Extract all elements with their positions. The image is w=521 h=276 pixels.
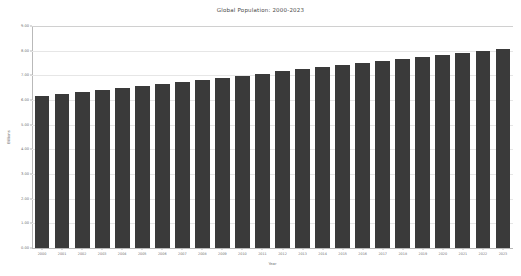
x-axis-tick-mark — [162, 248, 163, 250]
bar[interactable] — [455, 53, 470, 248]
bar-slot — [413, 26, 433, 248]
x-axis-tick-mark — [242, 248, 243, 250]
y-axis-label: Billions — [6, 130, 11, 144]
bar[interactable] — [395, 59, 410, 248]
bar[interactable] — [195, 80, 210, 248]
bar-slot — [313, 26, 333, 248]
x-axis-tick-label: 2013 — [298, 252, 307, 256]
bar[interactable] — [155, 84, 170, 248]
x-axis-tick-label: 2019 — [418, 252, 427, 256]
x-axis-tick-mark — [282, 248, 283, 250]
x-axis-tick-label: 2005 — [138, 252, 147, 256]
x-axis-tick-mark — [482, 248, 483, 250]
x-axis-tick-mark — [122, 248, 123, 250]
bar[interactable] — [95, 90, 110, 248]
chart-title: Global Population: 2000-2023 — [0, 7, 521, 13]
x-axis-tick-mark — [182, 248, 183, 250]
x-axis-tick-label: 2018 — [398, 252, 407, 256]
bar-series — [32, 26, 513, 248]
bar[interactable] — [175, 82, 190, 248]
x-axis-tick-label: 2000 — [38, 252, 47, 256]
bar-slot — [353, 26, 373, 248]
bar-slot — [333, 26, 353, 248]
x-axis-tick-label: 2009 — [218, 252, 227, 256]
x-axis-tick-mark — [342, 248, 343, 250]
bar[interactable] — [496, 49, 511, 248]
bar[interactable] — [435, 55, 450, 248]
bar-slot — [52, 26, 72, 248]
bar[interactable] — [415, 57, 430, 248]
x-axis-tick-label: 2011 — [258, 252, 267, 256]
bar-slot — [172, 26, 192, 248]
bar[interactable] — [315, 67, 330, 248]
x-axis-tick-label: 2021 — [459, 252, 468, 256]
x-axis-tick-mark — [422, 248, 423, 250]
bar-slot — [493, 26, 513, 248]
bar-slot — [393, 26, 413, 248]
x-axis-tick-label: 2012 — [278, 252, 287, 256]
bar[interactable] — [115, 88, 130, 248]
x-axis-tick-label: 2017 — [378, 252, 387, 256]
bar-slot — [273, 26, 293, 248]
bar-chart: Global Population: 2000-2023 Billions 0.… — [0, 0, 521, 276]
bar-slot — [252, 26, 272, 248]
x-axis-tick-mark — [402, 248, 403, 250]
x-axis-tick-label: 2010 — [238, 252, 247, 256]
bar[interactable] — [215, 78, 230, 248]
x-axis-tick-label: 2004 — [118, 252, 127, 256]
x-axis-tick-label: 2002 — [78, 252, 87, 256]
bar[interactable] — [375, 61, 390, 248]
bar-slot — [473, 26, 493, 248]
bar-slot — [373, 26, 393, 248]
x-axis-tick-label: 2006 — [158, 252, 167, 256]
bar[interactable] — [75, 92, 90, 248]
x-axis-tick-mark — [62, 248, 63, 250]
bar-slot — [433, 26, 453, 248]
bar-slot — [453, 26, 473, 248]
bar[interactable] — [295, 69, 310, 248]
bar[interactable] — [35, 96, 50, 248]
x-axis-tick-mark — [442, 248, 443, 250]
x-axis-tick-mark — [322, 248, 323, 250]
x-axis-tick-label: 2001 — [58, 252, 67, 256]
x-axis-tick-mark — [82, 248, 83, 250]
x-axis-tick-mark — [262, 248, 263, 250]
x-axis-tick-mark — [382, 248, 383, 250]
x-axis-tick-label: 2007 — [178, 252, 187, 256]
bar-slot — [112, 26, 132, 248]
x-axis-tick-label: 2008 — [198, 252, 207, 256]
x-axis-tick-label: 2016 — [358, 252, 367, 256]
bar[interactable] — [255, 74, 270, 248]
bar-slot — [32, 26, 52, 248]
bar-slot — [232, 26, 252, 248]
bar[interactable] — [55, 94, 70, 248]
x-axis-tick-mark — [102, 248, 103, 250]
plot-area: 0.001.002.003.004.005.006.007.008.009.00 — [32, 26, 513, 248]
bar[interactable] — [135, 86, 150, 248]
bar[interactable] — [275, 71, 290, 248]
bar-slot — [212, 26, 232, 248]
bar[interactable] — [476, 51, 491, 248]
x-axis-tick-label: 2023 — [499, 252, 508, 256]
x-axis-tick-label: 2014 — [318, 252, 327, 256]
bar-slot — [293, 26, 313, 248]
bar-slot — [192, 26, 212, 248]
x-axis-tick-mark — [462, 248, 463, 250]
bar-slot — [152, 26, 172, 248]
x-axis-tick-mark — [202, 248, 203, 250]
x-axis-tick-mark — [42, 248, 43, 250]
x-axis-tick-label: 2015 — [338, 252, 347, 256]
x-axis-line — [32, 248, 513, 249]
bar[interactable] — [355, 63, 370, 248]
bar-slot — [92, 26, 112, 248]
bar[interactable] — [335, 65, 350, 248]
bar-slot — [72, 26, 92, 248]
bar[interactable] — [235, 76, 250, 248]
x-axis-tick-label: 2020 — [439, 252, 448, 256]
bar-slot — [132, 26, 152, 248]
x-axis-tick-mark — [502, 248, 503, 250]
x-axis-tick-label: 2003 — [98, 252, 107, 256]
x-axis-tick-label: 2022 — [479, 252, 488, 256]
x-axis-tick-mark — [142, 248, 143, 250]
x-axis-tick-mark — [222, 248, 223, 250]
